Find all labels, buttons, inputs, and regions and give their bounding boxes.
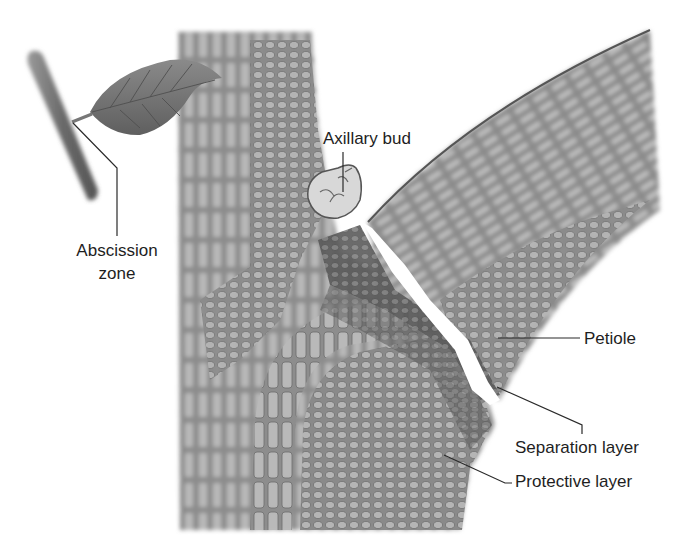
- twig: [27, 51, 98, 200]
- label-axillary-bud: Axillary bud: [323, 129, 411, 149]
- leaf-petiole: [72, 114, 92, 122]
- label-abscission-zone: Abscission zone: [62, 241, 172, 284]
- label-petiole: Petiole: [584, 329, 636, 349]
- label-protective-layer: Protective layer: [515, 472, 632, 492]
- label-separation-layer: Separation layer: [515, 438, 639, 458]
- label-abscission-zone-line1: Abscission: [62, 241, 172, 261]
- label-abscission-zone-line2: zone: [62, 264, 172, 284]
- separation-layer-leader: [497, 387, 582, 434]
